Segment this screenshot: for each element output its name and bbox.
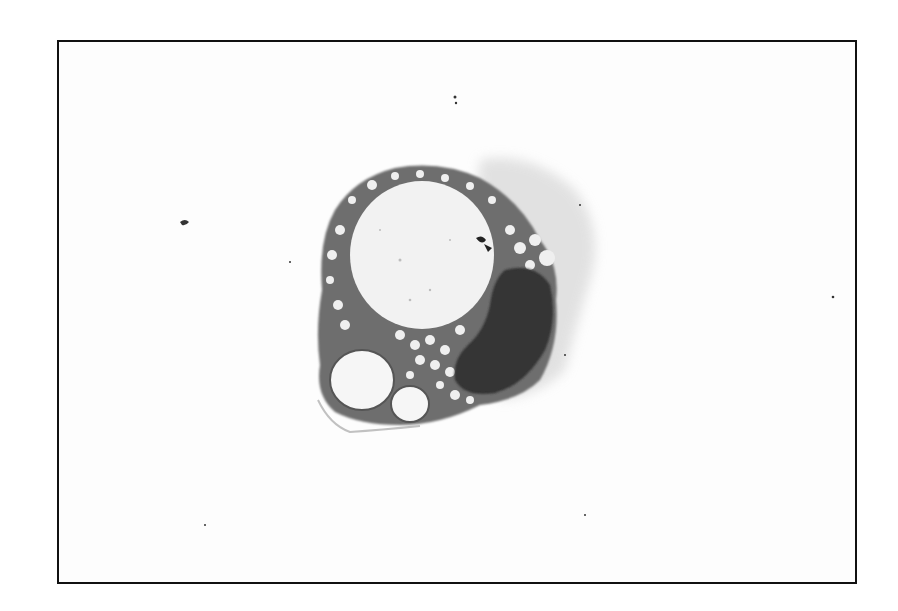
vacuole-lower-left (330, 350, 394, 410)
vacuole-lower-middle (391, 386, 429, 422)
large-vacuole (350, 181, 494, 329)
cell-micrograph (0, 0, 898, 611)
